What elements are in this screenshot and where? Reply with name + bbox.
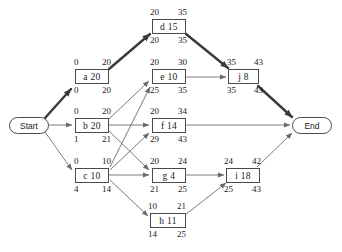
activity-j-label: j 8 <box>238 72 249 82</box>
activity-b-label: b 20 <box>83 121 101 131</box>
activity-node-d[interactable]: d 15 <box>152 19 186 34</box>
activity-h-late-times: 14 25 <box>148 229 186 239</box>
activity-node-h[interactable]: h 11 <box>150 213 186 228</box>
activity-d-late-finish: 35 <box>178 35 187 45</box>
activity-e-late-finish: 35 <box>178 85 187 95</box>
activity-i-label: i 18 <box>235 171 251 181</box>
activity-e-late-start: 25 <box>150 85 159 95</box>
activity-g-early-start: 20 <box>150 156 159 166</box>
activity-b-early-start: 0 <box>74 106 79 116</box>
start-node-label: Start <box>20 121 38 131</box>
activity-g-late-times: 21 25 <box>150 184 187 194</box>
activity-i-late-times: 25 43 <box>224 184 261 194</box>
activity-b-late-finish: 21 <box>102 134 111 144</box>
activity-c-early-times: 0 10 <box>74 156 111 166</box>
activity-node-c[interactable]: c 10 <box>75 168 109 183</box>
activity-node-f[interactable]: f 14 <box>152 118 186 133</box>
edge-b-g <box>109 131 149 170</box>
activity-g-late-finish: 25 <box>178 184 187 194</box>
activity-b-early-finish: 20 <box>102 106 111 116</box>
activity-j-late-finish: 43 <box>254 85 263 95</box>
network-diagram-canvas: Start End 20 35 d 15 20 35 0 20 a 20 0 2… <box>0 0 342 252</box>
activity-h-early-start: 10 <box>148 201 157 211</box>
edge-d-j-critical <box>186 34 228 68</box>
activity-j-early-finish: 43 <box>254 57 263 67</box>
activity-e-early-start: 20 <box>150 57 159 67</box>
activity-node-i[interactable]: i 18 <box>226 168 260 183</box>
edge-start-c <box>45 132 72 170</box>
edge-h-i <box>185 183 226 215</box>
activity-j-early-start: 35 <box>227 57 236 67</box>
activity-a-late-finish: 20 <box>102 85 111 95</box>
activity-j-late-times: 35 43 <box>227 85 263 95</box>
end-node[interactable]: End <box>292 117 332 134</box>
activity-c-early-finish: 10 <box>102 156 111 166</box>
activity-i-early-start: 24 <box>224 156 233 166</box>
activity-h-label: h 11 <box>159 216 176 226</box>
activity-a-late-times: 0 20 <box>74 85 111 95</box>
activity-e-late-times: 25 35 <box>150 85 187 95</box>
activity-j-early-times: 35 43 <box>227 57 263 67</box>
activity-g-label: g 4 <box>163 171 176 181</box>
activity-f-early-times: 20 34 <box>150 106 187 116</box>
activity-g-early-finish: 24 <box>178 156 187 166</box>
activity-a-label: a 20 <box>83 72 100 82</box>
activity-e-early-finish: 30 <box>178 57 187 67</box>
end-node-label: End <box>304 121 319 131</box>
activity-i-late-finish: 43 <box>252 184 261 194</box>
edge-start-a-critical <box>45 89 71 118</box>
activity-d-early-times: 20 35 <box>150 7 187 17</box>
activity-a-early-finish: 20 <box>102 57 111 67</box>
activity-f-label: f 14 <box>161 121 177 131</box>
activity-h-late-start: 14 <box>148 229 157 239</box>
activity-h-late-finish: 25 <box>177 229 186 239</box>
activity-node-a[interactable]: a 20 <box>75 69 109 84</box>
activity-a-late-start: 0 <box>74 85 79 95</box>
activity-f-late-times: 29 43 <box>150 134 187 144</box>
activity-node-g[interactable]: g 4 <box>152 168 186 183</box>
activity-i-late-start: 25 <box>224 184 233 194</box>
activity-i-early-times: 24 42 <box>224 156 261 166</box>
activity-g-late-start: 21 <box>150 184 159 194</box>
activity-e-label: e 10 <box>160 72 177 82</box>
activity-f-late-start: 29 <box>150 134 159 144</box>
activity-d-early-finish: 35 <box>178 7 187 17</box>
activity-c-label: c 10 <box>83 171 100 181</box>
activity-b-late-times: 1 21 <box>74 134 111 144</box>
activity-j-late-start: 35 <box>227 85 236 95</box>
activity-e-early-times: 20 30 <box>150 57 187 67</box>
edge-j-end-critical <box>258 86 292 117</box>
activity-d-late-times: 20 35 <box>150 35 187 45</box>
activity-f-early-finish: 34 <box>178 106 187 116</box>
activity-d-early-start: 20 <box>150 7 159 17</box>
activity-c-late-finish: 14 <box>102 184 111 194</box>
activity-b-early-times: 0 20 <box>74 106 111 116</box>
edge-c-h <box>110 180 148 216</box>
activity-node-b[interactable]: b 20 <box>75 118 109 133</box>
edge-i-end <box>257 133 292 167</box>
edge-a-d-critical <box>109 34 150 69</box>
activity-c-late-times: 4 14 <box>74 184 111 194</box>
activity-h-early-times: 10 21 <box>148 201 186 211</box>
activity-d-label: d 15 <box>160 22 178 32</box>
activity-a-early-start: 0 <box>74 57 79 67</box>
activity-g-early-times: 20 24 <box>150 156 187 166</box>
activity-f-early-start: 20 <box>150 106 159 116</box>
activity-i-early-finish: 42 <box>252 156 261 166</box>
activity-f-late-finish: 43 <box>178 134 187 144</box>
activity-node-j[interactable]: j 8 <box>228 69 259 84</box>
activity-b-late-start: 1 <box>74 134 79 144</box>
activity-a-early-times: 0 20 <box>74 57 111 67</box>
activity-node-e[interactable]: e 10 <box>152 69 186 84</box>
start-node[interactable]: Start <box>9 117 49 134</box>
activity-c-early-start: 0 <box>74 156 79 166</box>
activity-h-early-finish: 21 <box>177 201 186 211</box>
activity-d-late-start: 20 <box>150 35 159 45</box>
activity-c-late-start: 4 <box>74 184 79 194</box>
